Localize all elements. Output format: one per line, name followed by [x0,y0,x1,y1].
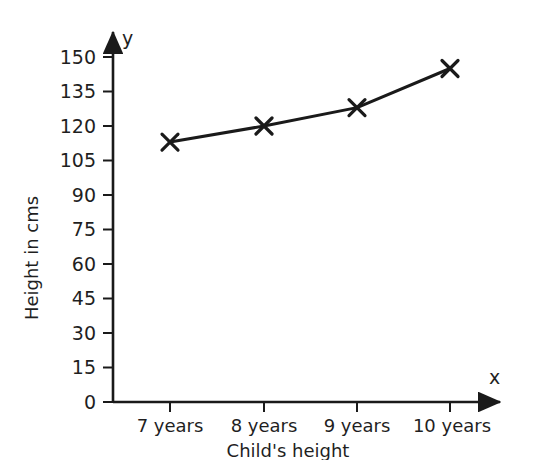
x-tick-label: 7 years [137,415,204,436]
y-tick-label: 0 [84,391,96,413]
y-tick-label: 30 [72,322,96,344]
line-chart-svg: 0 15 30 45 60 75 90 105 120 135 150 7 ye… [0,0,537,460]
data-series-line [170,69,450,143]
y-tick-label: 15 [72,356,96,378]
y-tick-label: 75 [72,218,96,240]
y-tick-label: 45 [72,287,96,309]
x-axis-tick-labels: 7 years 8 years 9 years 10 years [137,415,491,436]
data-point-marker [442,61,458,77]
y-axis-ticks [103,57,113,402]
y-axis-letter: y [122,27,133,49]
y-axis-tick-labels: 0 15 30 45 60 75 90 105 120 135 150 [60,46,96,413]
y-tick-label: 120 [60,115,96,137]
y-tick-label: 105 [60,149,96,171]
x-tick-label: 8 years [231,415,298,436]
x-axis-ticks [170,402,450,412]
y-axis-title: Height in cms [21,196,42,320]
y-tick-label: 150 [60,46,96,68]
x-tick-label: 10 years [413,415,491,436]
y-tick-label: 135 [60,80,96,102]
y-tick-label: 60 [72,253,96,275]
x-axis-title: Child's height [227,440,350,460]
x-tick-label: 9 years [324,415,391,436]
y-tick-label: 90 [72,184,96,206]
x-axis-letter: x [489,366,500,388]
chart-container: 0 15 30 45 60 75 90 105 120 135 150 7 ye… [0,0,537,460]
